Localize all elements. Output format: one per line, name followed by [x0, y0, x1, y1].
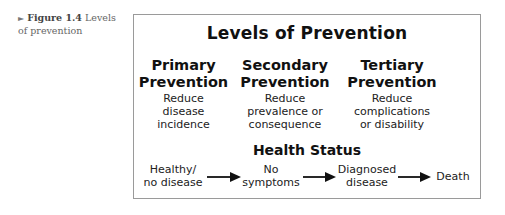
- description-line: consequence: [232, 118, 338, 131]
- figure-label: Figure 1.4: [27, 12, 82, 23]
- stage-no-symptoms: No symptoms: [240, 163, 302, 189]
- figure-caption: ► Figure 1.4 Levels of prevention: [18, 12, 128, 37]
- secondary-prevention: Secondary Prevention Reduce prevalence o…: [232, 57, 338, 131]
- caption-marker-icon: ►: [18, 14, 24, 23]
- diagram-title: Levels of Prevention: [134, 23, 480, 43]
- right-arrow-icon: [206, 171, 242, 183]
- level-description: Reduce prevalence or consequence: [232, 92, 338, 131]
- description-line: complications: [341, 105, 443, 118]
- level-heading: Primary Prevention: [136, 57, 231, 91]
- stage-healthy: Healthy/ no disease: [140, 163, 206, 189]
- levels-of-prevention-diagram: Levels of Prevention Primary Prevention …: [133, 14, 481, 199]
- stage-death: Death: [431, 170, 475, 183]
- description-line: incidence: [136, 118, 231, 131]
- level-heading: Tertiary Prevention: [341, 57, 443, 91]
- primary-prevention: Primary Prevention Reduce disease incide…: [136, 57, 231, 131]
- description-line: disease: [136, 105, 231, 118]
- level-description: Reduce disease incidence: [136, 92, 231, 131]
- level-description: Reduce complications or disability: [341, 92, 443, 131]
- level-heading-line: Primary: [136, 57, 231, 74]
- description-line: prevalence or: [232, 105, 338, 118]
- level-heading-line: Prevention: [136, 74, 231, 91]
- stage-line: Death: [431, 170, 475, 183]
- stage-line: disease: [335, 176, 399, 189]
- description-line: Reduce: [232, 92, 338, 105]
- stage-line: No: [240, 163, 302, 176]
- level-heading-line: Secondary: [232, 57, 338, 74]
- level-heading-line: Tertiary: [341, 57, 443, 74]
- description-line: Reduce: [341, 92, 443, 105]
- description-line: or disability: [341, 118, 443, 131]
- right-arrow-icon: [397, 171, 432, 183]
- level-heading: Secondary Prevention: [232, 57, 338, 91]
- health-status-title: Health Status: [134, 142, 480, 158]
- stage-diagnosed-disease: Diagnosed disease: [335, 163, 399, 189]
- stage-line: Diagnosed: [335, 163, 399, 176]
- health-status-flow: Healthy/ no disease No symptoms Diagnose…: [134, 163, 480, 193]
- level-heading-line: Prevention: [341, 74, 443, 91]
- stage-line: no disease: [140, 176, 206, 189]
- description-line: Reduce: [136, 92, 231, 105]
- stage-line: symptoms: [240, 176, 302, 189]
- tertiary-prevention: Tertiary Prevention Reduce complications…: [341, 57, 443, 131]
- stage-line: Healthy/: [140, 163, 206, 176]
- right-arrow-icon: [302, 171, 337, 183]
- level-heading-line: Prevention: [232, 74, 338, 91]
